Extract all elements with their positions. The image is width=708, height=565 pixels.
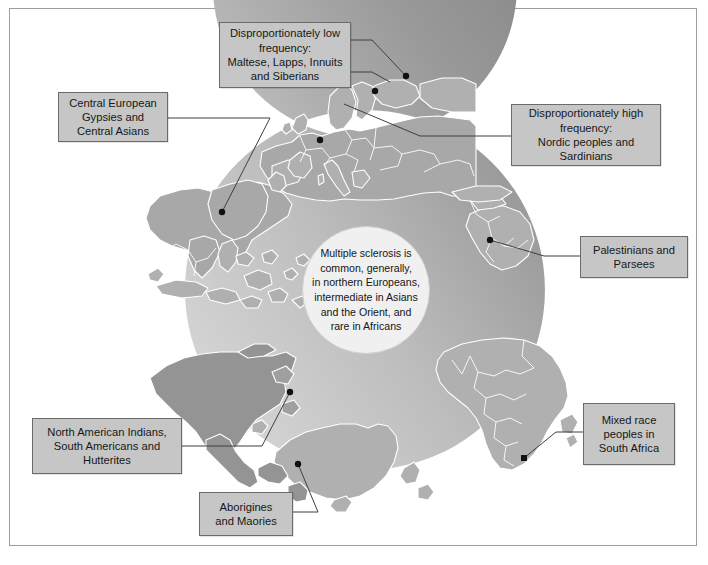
center-summary-text: Multiple sclerosis is common, generally,… [307, 246, 425, 334]
marker-levant [487, 237, 493, 243]
callout-palestinians-parsees[interactable]: Palestinians and Parsees [580, 236, 688, 278]
marker-arctic-russia [403, 73, 409, 79]
callout-low-frequency[interactable]: Disproportionately low frequency: Maltes… [219, 22, 351, 88]
callout-north-american-indians-text: North American Indians, South Americans … [39, 425, 175, 468]
marker-north-america [287, 389, 293, 395]
callout-high-frequency[interactable]: Disproportionately high frequency: Nordi… [511, 104, 661, 166]
center-summary-circle: Multiple sclerosis is common, generally,… [302, 226, 430, 354]
infographic-figure: Multiple sclerosis is common, generally,… [0, 0, 708, 565]
callout-central-european-gypsies[interactable]: Central European Gypsies and Central Asi… [58, 92, 168, 142]
marker-south-africa [521, 455, 527, 461]
callout-mixed-race-south-africa-text: Mixed race peoples in South Africa [590, 413, 668, 456]
figure-stage: Multiple sclerosis is common, generally,… [0, 0, 708, 565]
marker-australia [295, 461, 301, 467]
marker-scandinavia [372, 88, 378, 94]
callout-high-frequency-text: Disproportionately high frequency: Nordi… [518, 106, 654, 163]
callout-mixed-race-south-africa[interactable]: Mixed race peoples in South Africa [583, 403, 675, 465]
callout-north-american-indians[interactable]: North American Indians, South Americans … [32, 418, 182, 474]
marker-sardinia [317, 137, 323, 143]
callout-central-european-gypsies-text: Central European Gypsies and Central Asi… [65, 96, 161, 139]
callout-low-frequency-text: Disproportionately low frequency: Maltes… [226, 26, 344, 83]
callout-palestinians-parsees-text: Palestinians and Parsees [587, 243, 681, 272]
callout-aborigines-maories[interactable]: Aborigines and Maories [199, 492, 293, 536]
marker-central-asia [219, 209, 225, 215]
callout-aborigines-maories-text: Aborigines and Maories [206, 500, 286, 529]
